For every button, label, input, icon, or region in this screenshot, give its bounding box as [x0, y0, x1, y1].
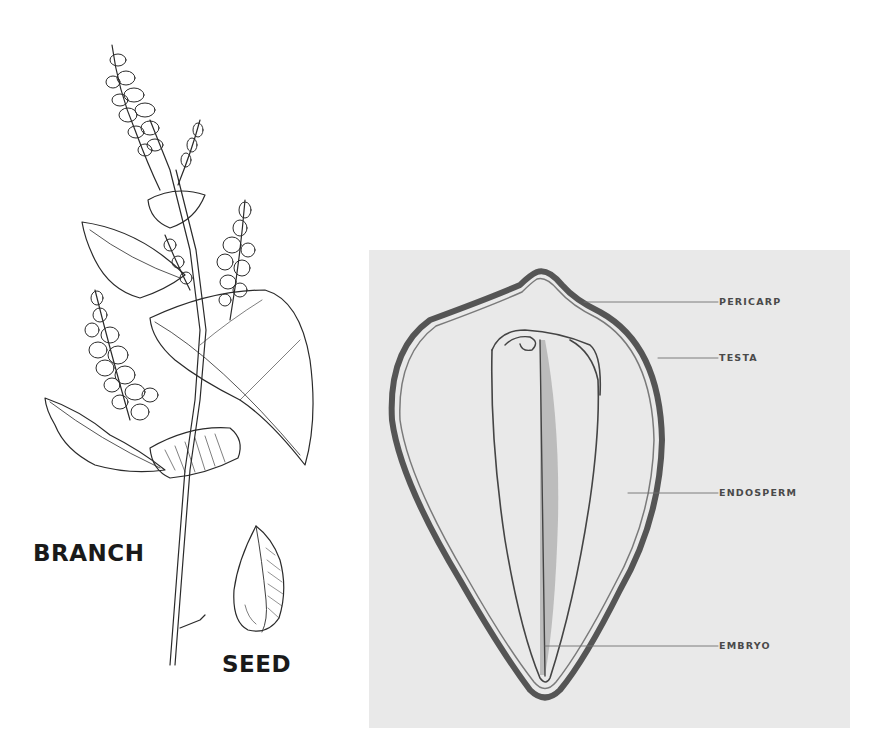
embryo-label: EMBRYO — [719, 640, 771, 651]
endosperm-label: ENDOSPERM — [719, 487, 797, 498]
testa-label: TESTA — [719, 352, 758, 363]
pericarp-label: PERICARP — [719, 296, 782, 307]
